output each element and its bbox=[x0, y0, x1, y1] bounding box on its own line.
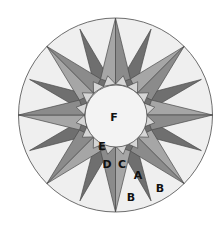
label-E: E bbox=[98, 140, 106, 153]
label-B-right: B bbox=[156, 182, 164, 195]
label-D: D bbox=[102, 158, 111, 171]
mariners-compass-diagram: F E D C A B B bbox=[0, 0, 224, 230]
label-F: F bbox=[110, 111, 118, 124]
label-B-lower: B bbox=[127, 191, 135, 204]
label-C: C bbox=[118, 158, 126, 171]
label-A: A bbox=[134, 169, 143, 182]
